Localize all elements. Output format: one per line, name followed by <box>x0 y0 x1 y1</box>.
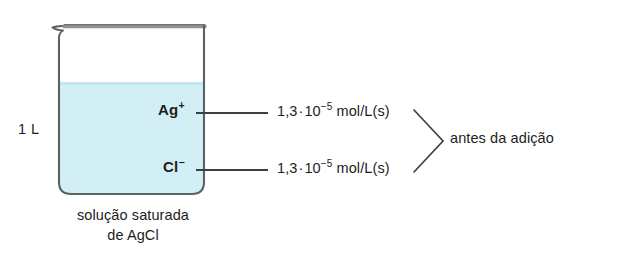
ion-label-silver: Ag+ <box>158 99 185 118</box>
beaker-volume-label: 1 L <box>18 121 40 138</box>
ion-label-chloride: Cl− <box>163 156 185 175</box>
chemistry-diagram: 1 L Ag+ Cl− 1,3·10−5 mol/L(s) 1,3·10−5 m… <box>0 0 620 263</box>
concentration-exponent-silver: −5 <box>321 101 333 112</box>
concentration-base-chloride: 10 <box>304 160 320 176</box>
ion-charge-silver: + <box>178 99 184 111</box>
concentration-base-silver: 10 <box>304 103 320 119</box>
ion-symbol-chloride: Cl <box>163 158 178 175</box>
ion-charge-chloride: − <box>178 156 184 168</box>
beaker-caption-line-2: de AgCl <box>58 226 208 246</box>
concentration-unit-chloride: mol/L(s) <box>337 160 390 176</box>
concentration-unit-silver: mol/L(s) <box>337 103 390 119</box>
grouping-bracket <box>414 110 443 172</box>
concentration-exponent-chloride: −5 <box>321 158 333 169</box>
concentration-mantissa-silver: 1,3 <box>277 103 297 119</box>
concentration-mantissa-chloride: 1,3 <box>277 160 297 176</box>
bracket-label: antes da adição <box>450 130 554 147</box>
beaker-spout <box>53 26 65 40</box>
concentration-silver: 1,3·10−5 mol/L(s) <box>277 101 390 120</box>
beaker-caption-line-1: solução saturada <box>58 206 208 226</box>
concentration-chloride: 1,3·10−5 mol/L(s) <box>277 158 390 177</box>
ion-symbol-silver: Ag <box>158 101 178 118</box>
beaker-caption: solução saturada de AgCl <box>58 206 208 245</box>
